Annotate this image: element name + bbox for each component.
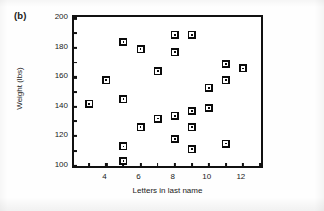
y-axis-minor-tick-mark <box>74 32 77 34</box>
data-point-center <box>225 63 227 65</box>
data-point <box>119 38 127 46</box>
y-axis-tick-label: 180 <box>42 41 68 50</box>
x-axis-tick-mark <box>174 163 176 166</box>
data-point-center <box>157 70 159 72</box>
y-axis-minor-tick-mark <box>74 62 77 64</box>
data-point <box>154 115 162 123</box>
data-point <box>188 123 196 131</box>
data-point <box>188 107 196 115</box>
plot-inner <box>74 17 261 166</box>
y-axis-tick-label: 160 <box>42 71 68 80</box>
data-point-center <box>140 126 142 128</box>
data-point <box>154 67 162 75</box>
x-axis-tick-label: 8 <box>163 172 183 181</box>
data-point-center <box>174 115 176 117</box>
figure-panel-b: (b) Weight (lbs) Letters in last name 10… <box>0 0 324 211</box>
data-point-center <box>191 126 193 128</box>
y-axis-tick-label: 100 <box>42 159 68 168</box>
data-point-center <box>191 148 193 150</box>
y-axis-tick-label: 120 <box>42 130 68 139</box>
data-point-center <box>123 160 125 162</box>
data-point-center <box>191 34 193 36</box>
data-point-center <box>174 51 176 53</box>
data-point <box>119 157 127 165</box>
data-point <box>188 31 196 39</box>
data-point <box>222 60 230 68</box>
y-axis-tick-mark <box>74 135 77 137</box>
data-point <box>188 145 196 153</box>
data-point <box>222 140 230 148</box>
data-point-center <box>225 79 227 81</box>
y-axis-tick-mark <box>74 76 77 78</box>
x-axis-tick-label: 4 <box>94 172 114 181</box>
y-axis-tick-label: 200 <box>42 12 68 21</box>
x-axis-minor-tick-mark <box>225 163 227 166</box>
plot-area <box>72 15 263 168</box>
data-point <box>171 135 179 143</box>
x-axis-tick-label: 12 <box>231 172 251 181</box>
x-axis-tick-mark <box>105 163 107 166</box>
y-axis-minor-tick-mark <box>74 150 77 152</box>
data-point <box>205 104 213 112</box>
data-point-center <box>242 68 244 70</box>
data-point-center <box>140 48 142 50</box>
data-point <box>171 31 179 39</box>
y-axis-tick-mark <box>74 164 77 166</box>
data-point <box>85 100 93 108</box>
data-point <box>102 76 110 84</box>
y-axis-tick-label: 140 <box>42 100 68 109</box>
data-point <box>119 142 127 150</box>
data-point-center <box>208 107 210 109</box>
data-point-center <box>123 41 125 43</box>
panel-label: (b) <box>14 10 27 21</box>
data-point-center <box>225 143 227 145</box>
data-point <box>119 95 127 103</box>
x-axis-minor-tick-mark <box>259 163 261 166</box>
x-axis-tick-mark <box>208 163 210 166</box>
data-point-center <box>191 110 193 112</box>
data-point <box>205 84 213 92</box>
y-axis-minor-tick-mark <box>74 120 77 122</box>
y-axis-tick-mark <box>74 106 77 108</box>
data-point-center <box>88 103 90 105</box>
x-axis-minor-tick-mark <box>157 163 159 166</box>
x-axis-tick-label: 6 <box>129 172 149 181</box>
data-point <box>171 112 179 120</box>
data-point-center <box>123 98 125 100</box>
data-point <box>239 64 247 72</box>
x-axis-tick-mark <box>139 163 141 166</box>
y-axis-label: Weight (lbs) <box>15 51 24 127</box>
data-point-center <box>123 146 125 148</box>
y-axis-tick-mark <box>74 17 77 19</box>
data-point-center <box>105 79 107 81</box>
y-axis-minor-tick-mark <box>74 91 77 93</box>
data-point-center <box>174 138 176 140</box>
data-point <box>137 45 145 53</box>
data-point-center <box>157 118 159 120</box>
data-point-center <box>208 87 210 89</box>
data-point <box>137 123 145 131</box>
x-axis-minor-tick-mark <box>88 163 90 166</box>
data-point <box>171 48 179 56</box>
x-axis-tick-mark <box>242 163 244 166</box>
data-point <box>222 76 230 84</box>
data-point-center <box>174 34 176 36</box>
x-axis-tick-label: 10 <box>197 172 217 181</box>
y-axis-tick-mark <box>74 47 77 49</box>
x-axis-minor-tick-mark <box>191 163 193 166</box>
x-axis-label: Letters in last name <box>72 186 263 195</box>
